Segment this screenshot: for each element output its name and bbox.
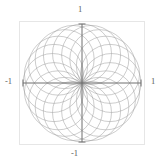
y-axis-tick-label-top: 1: [78, 5, 82, 14]
rosette-circle: [29, 71, 88, 130]
rosette-circle: [43, 82, 102, 141]
rosette-circle: [81, 44, 140, 103]
rosette-circle: [24, 44, 83, 103]
rosette-circle: [35, 30, 94, 89]
rosette-circle: [29, 36, 88, 95]
x-axis-tick-label-left: -1: [5, 77, 12, 86]
plot-canvas: [0, 0, 162, 166]
rosette-circle: [70, 30, 129, 89]
rosette-circle: [62, 25, 121, 84]
x-axis-tick-label-right: 1: [151, 77, 155, 86]
rosette-circle: [43, 25, 102, 84]
rosette-circle: [76, 71, 135, 130]
rosette-circle: [76, 36, 135, 95]
rosette-circle: [35, 77, 94, 136]
rosette-circle: [81, 63, 140, 122]
plot-figure: 1 -1 -1 1: [0, 0, 162, 166]
y-axis-tick-label-bottom: -1: [71, 149, 78, 158]
rosette-circle: [62, 82, 121, 141]
rosette-circle: [24, 63, 83, 122]
rosette-circle: [70, 77, 129, 136]
